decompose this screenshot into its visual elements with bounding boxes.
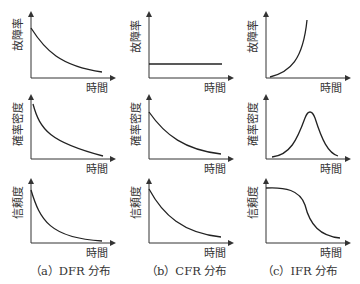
panel-c-failure-rate: 故障率 時間 (246, 14, 348, 95)
y-axis-label: 信頼度 (246, 186, 260, 219)
panel-a-reliability: 信頼度 時間 (11, 181, 113, 260)
caption-ifr: （c）IFR 分布 (262, 262, 337, 278)
panel-b-reliability: 信頼度 時間 (129, 181, 231, 260)
caption-cfr: （b）CFR 分布 (146, 262, 226, 278)
y-axis-label: 信頼度 (11, 186, 25, 219)
y-axis-label: 信頼度 (129, 186, 143, 219)
panel-b-failure-rate: 故障率 時間 (129, 14, 231, 95)
panel-b-density: 確率密度 時間 (129, 97, 231, 176)
y-axis-label: 故障率 (129, 20, 143, 53)
x-axis-label: 時間 (320, 247, 342, 260)
y-axis-label: 故障率 (246, 20, 260, 53)
panel-c-reliability: 信頼度 時間 (246, 181, 348, 260)
caption-dfr: （a）DFR 分布 (30, 262, 110, 278)
y-axis-label: 確率密度 (11, 102, 25, 146)
y-axis-label: 故障率 (11, 18, 25, 51)
x-axis-label: 時間 (86, 163, 108, 176)
x-axis-label: 時間 (204, 82, 226, 95)
reliability-curves-figure: 故障率 時間 確率密度 時間 信頼度 時間 故障率 時間 確率密度 時間 信頼度… (0, 0, 360, 284)
panel-c-density: 確率密度 時間 (246, 97, 348, 176)
x-axis-label: 時間 (86, 82, 108, 95)
x-axis-label: 時間 (86, 247, 108, 260)
x-axis-label: 時間 (204, 247, 226, 260)
x-axis-label: 時間 (320, 82, 342, 95)
panel-a-density: 確率密度 時間 (11, 97, 113, 176)
x-axis-label: 時間 (320, 163, 342, 176)
y-axis-label: 確率密度 (246, 102, 260, 146)
y-axis-label: 確率密度 (129, 102, 143, 146)
x-axis-label: 時間 (204, 163, 226, 176)
panel-a-failure-rate: 故障率 時間 (11, 14, 113, 95)
